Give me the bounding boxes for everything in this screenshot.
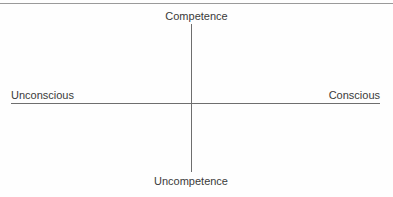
axis-label-competence: Competence xyxy=(0,10,393,23)
axis-label-uncompetence: Uncompetence xyxy=(0,175,382,188)
vertical-axis-line xyxy=(191,24,192,172)
axis-label-unconscious: Unconscious xyxy=(11,89,74,102)
page-top-rule xyxy=(0,3,393,4)
conscious-competence-diagram: Competence Uncompetence Unconscious Cons… xyxy=(0,0,393,197)
axis-label-conscious: Conscious xyxy=(329,89,380,102)
horizontal-axis-line xyxy=(11,103,380,104)
